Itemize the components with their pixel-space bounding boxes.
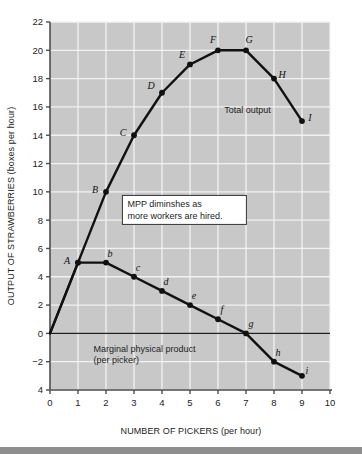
x-tick-label: 5: [187, 397, 192, 408]
data-point-label: b: [108, 248, 113, 259]
mpp-label-line2: (per picker): [93, 355, 139, 365]
x-tick-label: 8: [271, 397, 276, 408]
total-output-label: Total output: [224, 105, 271, 115]
y-tick-label: 16: [32, 101, 43, 112]
data-point-label: e: [192, 290, 197, 301]
data-point-label: A: [63, 255, 71, 266]
y-axis-ticks: 2220181614121086420−24: [32, 16, 50, 395]
x-tick-label: 9: [299, 397, 304, 408]
data-point-label: G: [245, 34, 252, 45]
mpp-annotation-line1: MPP diminshes as: [127, 199, 202, 209]
bottom-divider-bar: [0, 447, 362, 454]
x-tick-label: 3: [131, 397, 136, 408]
data-point-label: F: [209, 34, 217, 45]
x-axis-title: NUMBER OF PICKERS (per hour): [121, 426, 262, 436]
x-tick-label: 7: [243, 397, 248, 408]
mpp-annotation-line2: more workers are hired.: [127, 211, 222, 221]
y-tick-label: 2: [38, 299, 43, 310]
figure-container: 2220181614121086420−24 012345678910 ABCD…: [0, 0, 362, 454]
y-tick-label: 12: [32, 158, 43, 169]
y-tick-label: 18: [32, 73, 43, 84]
data-point-label: h: [276, 347, 281, 358]
x-tick-label: 1: [75, 397, 80, 408]
production-function-chart: 2220181614121086420−24 012345678910 ABCD…: [0, 0, 362, 454]
y-tick-label: 4: [38, 384, 43, 395]
data-point-label: D: [146, 80, 155, 91]
y-tick-label: 6: [38, 243, 43, 254]
y-tick-label: 10: [32, 186, 43, 197]
data-point-label: g: [249, 318, 254, 329]
y-tick-label: 4: [38, 271, 43, 282]
data-point-label: B: [92, 184, 98, 195]
data-point-label: E: [178, 49, 185, 60]
y-tick-label: 20: [32, 45, 43, 56]
y-axis-title: OUTPUT OF STRAWBERRIES (boxes per hour): [6, 107, 16, 305]
data-point-label: H: [277, 69, 286, 80]
y-tick-label: 14: [32, 130, 43, 141]
mpp-label-line1: Marginal physical product: [93, 344, 196, 354]
x-tick-label: 10: [325, 397, 336, 408]
x-axis-ticks: 012345678910: [47, 390, 335, 408]
data-point-label: I: [307, 112, 312, 123]
x-tick-label: 4: [159, 397, 164, 408]
y-tick-label: −2: [32, 356, 43, 367]
y-tick-label: 22: [32, 16, 43, 27]
data-point-label: C: [120, 127, 127, 138]
x-tick-label: 6: [215, 397, 220, 408]
x-tick-label: 0: [47, 397, 52, 408]
data-point-label: c: [136, 262, 141, 273]
y-tick-label: 0: [38, 328, 43, 339]
y-tick-label: 8: [38, 215, 43, 226]
x-tick-label: 2: [103, 397, 108, 408]
data-point-label: i: [306, 365, 309, 376]
